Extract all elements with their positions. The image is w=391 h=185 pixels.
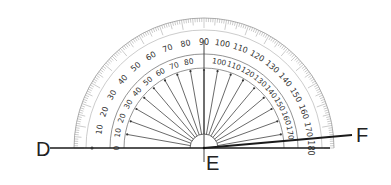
degree-tick bbox=[84, 97, 88, 99]
degree-tick bbox=[296, 64, 304, 70]
degree-tick bbox=[147, 31, 149, 35]
degree-tick bbox=[164, 24, 165, 28]
inner-scale-label: 70 bbox=[168, 60, 180, 72]
degree-tick bbox=[99, 72, 102, 74]
point-label-f: F bbox=[356, 124, 368, 146]
radial-dot bbox=[270, 108, 272, 110]
degree-tick bbox=[103, 66, 106, 69]
degree-tick bbox=[85, 95, 89, 97]
degree-tick bbox=[320, 97, 324, 99]
degree-tick bbox=[224, 20, 225, 24]
inner-scale-label: 60 bbox=[154, 66, 167, 79]
radial-dot bbox=[143, 97, 145, 99]
degree-tick bbox=[306, 72, 309, 74]
degree-tick bbox=[322, 125, 332, 127]
degree-tick bbox=[107, 61, 110, 64]
radial-dot bbox=[126, 133, 128, 135]
degree-tick bbox=[96, 75, 99, 77]
degree-tick bbox=[77, 121, 81, 122]
degree-tick bbox=[228, 20, 229, 24]
degree-tick bbox=[329, 130, 333, 131]
degree-tick bbox=[323, 114, 330, 116]
degree-tick bbox=[109, 59, 112, 62]
outer-scale-label: 150 bbox=[288, 86, 303, 104]
degree-tick bbox=[149, 30, 152, 36]
degree-tick bbox=[168, 23, 169, 27]
degree-tick bbox=[299, 63, 302, 66]
degree-tick bbox=[243, 24, 244, 28]
outer-scale-label: 50 bbox=[129, 60, 143, 73]
radial-line bbox=[131, 121, 191, 143]
degree-tick bbox=[215, 18, 216, 25]
degree-tick bbox=[324, 108, 328, 109]
degree-tick bbox=[288, 51, 291, 54]
outer-scale-label: 70 bbox=[161, 42, 174, 54]
degree-tick bbox=[124, 46, 126, 49]
degree-tick bbox=[314, 85, 317, 87]
degree-tick bbox=[155, 27, 156, 31]
degree-tick bbox=[133, 39, 135, 42]
degree-tick bbox=[230, 21, 231, 25]
degree-tick bbox=[236, 22, 238, 29]
degree-tick bbox=[128, 43, 130, 46]
radial-line bbox=[165, 80, 197, 135]
degree-tick bbox=[90, 85, 93, 87]
radial-line bbox=[136, 109, 191, 141]
degree-tick bbox=[93, 81, 96, 83]
degree-tick bbox=[317, 91, 321, 93]
degree-tick bbox=[76, 125, 86, 127]
degree-tick bbox=[177, 21, 178, 25]
degree-tick bbox=[139, 35, 144, 44]
radial-dot bbox=[164, 79, 166, 81]
outer-scale-label: 60 bbox=[144, 50, 157, 63]
degree-tick bbox=[143, 33, 145, 37]
degree-tick bbox=[311, 79, 314, 81]
degree-tick bbox=[115, 53, 118, 56]
degree-tick bbox=[162, 25, 163, 29]
degree-tick bbox=[80, 110, 84, 111]
degree-tick bbox=[283, 47, 286, 50]
radial-line bbox=[211, 80, 243, 135]
outer-scale-label: 40 bbox=[116, 73, 129, 87]
degree-tick bbox=[292, 54, 295, 57]
degree-tick bbox=[110, 58, 113, 61]
radial-dot bbox=[216, 70, 218, 72]
degree-tick bbox=[106, 63, 109, 66]
degree-tick bbox=[245, 25, 246, 29]
degree-tick bbox=[234, 22, 235, 26]
degree-tick bbox=[323, 106, 327, 107]
degree-tick bbox=[310, 77, 313, 79]
degree-tick bbox=[325, 112, 329, 113]
degree-tick bbox=[273, 39, 275, 42]
degree-tick bbox=[296, 59, 299, 62]
radial-dot bbox=[176, 74, 178, 76]
inner-scale-label: 10 bbox=[113, 127, 124, 138]
degree-tick bbox=[295, 58, 298, 61]
degree-tick bbox=[315, 93, 321, 96]
degree-tick bbox=[166, 24, 167, 28]
degree-tick bbox=[264, 35, 269, 44]
degree-tick bbox=[151, 29, 153, 33]
outer-scale-label: 120 bbox=[248, 48, 266, 63]
degree-tick bbox=[261, 32, 263, 36]
degree-tick bbox=[135, 38, 137, 41]
degree-tick bbox=[282, 46, 284, 49]
outer-scale-label: 170 bbox=[303, 121, 315, 138]
radial-line bbox=[154, 88, 195, 137]
radial-line bbox=[215, 98, 264, 139]
radial-line bbox=[190, 71, 201, 134]
degree-tick bbox=[326, 117, 330, 118]
degree-tick bbox=[76, 123, 80, 124]
outer-scale-label: 30 bbox=[106, 88, 119, 101]
degree-tick bbox=[114, 54, 117, 57]
radial-dot bbox=[253, 87, 255, 89]
degree-tick bbox=[83, 101, 87, 102]
protractor-diagram: 1020304050607080100110120130140150160170… bbox=[0, 0, 391, 185]
degree-tick bbox=[131, 40, 133, 43]
degree-tick bbox=[253, 28, 255, 32]
degree-tick bbox=[305, 70, 308, 72]
vertex-e bbox=[203, 147, 205, 149]
radial-dot bbox=[276, 120, 278, 122]
radial-dot bbox=[189, 70, 191, 72]
radial-line bbox=[206, 71, 217, 134]
